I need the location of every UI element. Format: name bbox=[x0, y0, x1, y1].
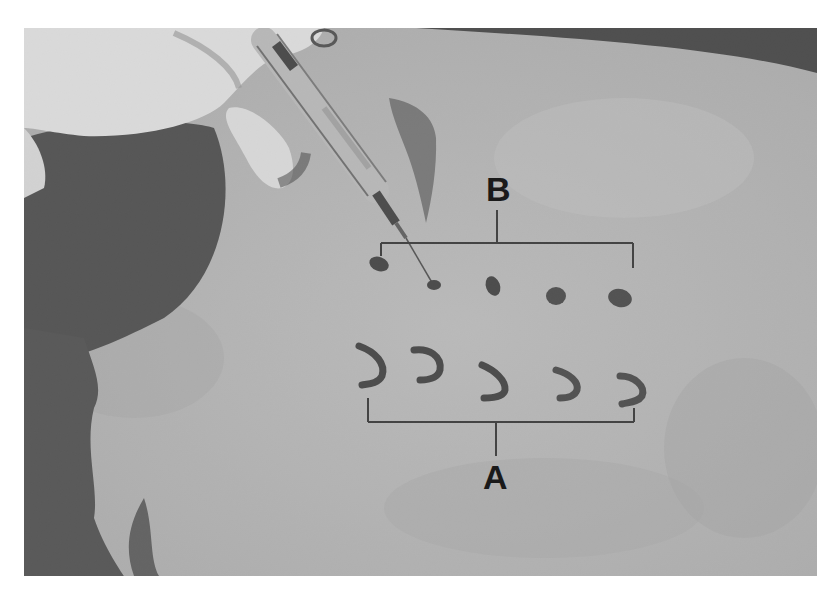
photo-scene bbox=[24, 28, 817, 576]
photograph: B A bbox=[24, 28, 817, 576]
label-b: B bbox=[486, 172, 511, 206]
label-a: A bbox=[483, 460, 508, 494]
